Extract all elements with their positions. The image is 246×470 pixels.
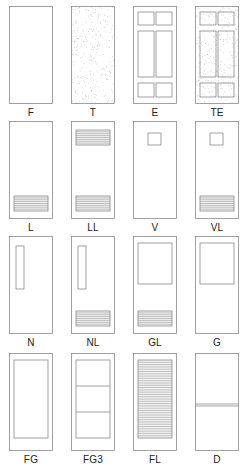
- door-label: FL: [123, 454, 187, 466]
- door-FG3: FG3: [71, 353, 115, 468]
- door-label: FG3: [61, 454, 125, 466]
- door-LL: LL: [71, 121, 115, 236]
- half-glass-louver-door-icon: [133, 236, 177, 334]
- door-L: L: [9, 121, 53, 236]
- full-glass-door-icon: [9, 353, 53, 451]
- door-V: V: [133, 121, 177, 236]
- top-bottom-louver-door-icon: [71, 121, 115, 219]
- door-F: F: [9, 6, 53, 121]
- door-label: V: [123, 222, 187, 234]
- full-glass-3-lite-door-icon: [71, 353, 115, 451]
- vision-lite-door-icon: [133, 121, 177, 219]
- door-label: G: [185, 337, 246, 349]
- door-label: L: [0, 222, 63, 234]
- textured-flush-door-icon: [71, 6, 115, 104]
- door-FG: FG: [9, 353, 53, 468]
- door-label: E: [123, 107, 187, 119]
- flush-door-icon: [9, 6, 53, 104]
- six-panel-door-icon: [133, 6, 177, 104]
- narrow-lite-louver-door-icon: [71, 236, 115, 334]
- door-N: N: [9, 236, 53, 351]
- door-E: E: [133, 6, 177, 121]
- door-TE: TE: [195, 6, 239, 121]
- door-label: D: [185, 454, 246, 466]
- dutch-door-icon: [195, 353, 239, 451]
- door-GL: GL: [133, 236, 177, 351]
- narrow-lite-door-icon: [9, 236, 53, 334]
- door-label: VL: [185, 222, 246, 234]
- door-label: F: [0, 107, 63, 119]
- door-VL: VL: [195, 121, 239, 236]
- door-label: FG: [0, 454, 63, 466]
- door-label: LL: [61, 222, 125, 234]
- door-G: G: [195, 236, 239, 351]
- door-FL: FL: [133, 353, 177, 468]
- door-label: GL: [123, 337, 187, 349]
- door-NL: NL: [71, 236, 115, 351]
- vision-lite-louver-door-icon: [195, 121, 239, 219]
- textured-six-panel-door-icon: [195, 6, 239, 104]
- door-types-diagram: F T E TE L LL V VL N NL GL: [0, 0, 246, 470]
- door-label: N: [0, 337, 63, 349]
- door-label: T: [61, 107, 125, 119]
- door-T: T: [71, 6, 115, 121]
- half-glass-door-icon: [195, 236, 239, 334]
- door-D: D: [195, 353, 239, 468]
- door-label: TE: [185, 107, 246, 119]
- door-label: NL: [61, 337, 125, 349]
- full-louver-door-icon: [133, 353, 177, 451]
- bottom-louver-door-icon: [9, 121, 53, 219]
